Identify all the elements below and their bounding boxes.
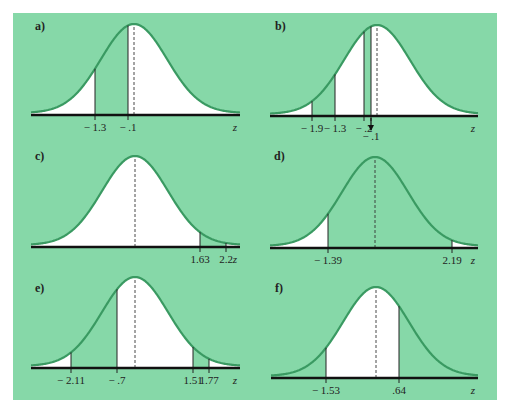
normal-curves-figure: − 1.3− .1za)− 1.9− 1.3− .2− .1zb)1.632.2… [13, 13, 497, 400]
panel-label: d) [274, 149, 285, 163]
tick-label: − .1 [119, 121, 136, 133]
axis-variable-label: z [232, 121, 238, 133]
axis-variable-label: z [470, 384, 476, 396]
unshaded-area [31, 156, 240, 247]
shaded-area [364, 26, 371, 116]
shaded-area [71, 289, 117, 368]
tick-label: − .7 [108, 374, 126, 386]
figure-canvas: − 1.3− .1za)− 1.9− 1.3− .2− .1zb)1.632.2… [13, 13, 497, 400]
tick-label: − 1.3 [84, 121, 107, 133]
panel-a: − 1.3− .1za) [31, 19, 240, 133]
unshaded-area [31, 277, 240, 368]
panel-e: − 2.11− .71.511.77ze) [31, 277, 240, 386]
tick-label: 2.19 [442, 254, 462, 266]
tick-label: .64 [392, 384, 406, 396]
panel-f: − 1.53.64zf) [271, 281, 478, 396]
tick-label: − 2.11 [57, 374, 85, 386]
tick-label: − .1 [362, 130, 379, 142]
tick-label: − 1.3 [324, 122, 347, 134]
shaded-area [328, 157, 452, 248]
panel-d: − 1.392.19zd) [270, 149, 478, 266]
shaded-area [95, 25, 128, 115]
panel-label: c) [35, 149, 44, 163]
axis-variable-label: z [232, 374, 238, 386]
axis-variable-label: z [470, 254, 476, 266]
panel-c: 1.632.2zc) [31, 149, 240, 265]
shaded-area [271, 348, 326, 378]
tick-label: − 1.9 [301, 122, 324, 134]
unshaded-area [270, 25, 478, 116]
tick-label: 1.63 [190, 253, 210, 265]
axis-variable-label: z [470, 122, 476, 134]
panel-label: e) [35, 281, 44, 295]
shaded-area [399, 306, 478, 378]
panel-label: a) [35, 19, 45, 33]
panel-label: f) [275, 281, 283, 295]
axis-variable-label: z [232, 253, 238, 265]
panel-b: − 1.9− 1.3− .2− .1zb) [270, 19, 478, 142]
tick-label: 2.2 [219, 253, 233, 265]
tick-label: − 1.39 [314, 254, 343, 266]
tick-label: − 1.53 [312, 384, 341, 396]
unshaded-area [31, 24, 240, 115]
tick-label: 1.77 [199, 374, 219, 386]
unshaded-area [271, 287, 478, 378]
panel-label: b) [275, 19, 286, 33]
